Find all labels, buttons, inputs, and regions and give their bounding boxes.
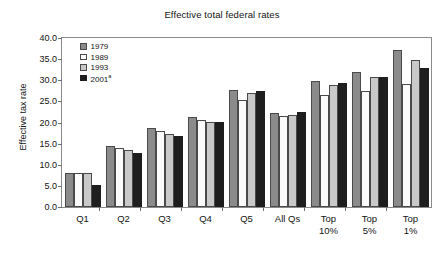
legend-swatch-icon xyxy=(80,43,87,50)
bar-2001-Top-10% xyxy=(338,83,347,207)
y-axis-tick-label: 0.0 xyxy=(21,202,62,212)
x-axis-tick-label: Top 5% xyxy=(362,213,377,236)
bar-1979-Q5 xyxy=(229,90,238,207)
legend-footnote-marker: a xyxy=(108,73,111,79)
bar-1993-Top-1% xyxy=(411,60,420,207)
plot-inner: 40.035.030.025.020.015.010.05.00.0 Q1Q2Q… xyxy=(62,38,431,207)
legend-swatch-icon xyxy=(80,64,87,71)
bar-1993-Top-5% xyxy=(370,77,379,207)
legend-item-1989: 1989 xyxy=(80,53,111,62)
x-axis-tick-mark xyxy=(304,207,305,211)
bar-1979-Q3 xyxy=(147,128,156,207)
y-axis-tick-label: 35.0 xyxy=(21,54,62,64)
bar-group xyxy=(188,38,224,207)
y-axis-tick-label: 15.0 xyxy=(21,139,62,149)
chart-title: Effective total federal rates xyxy=(0,9,444,20)
x-axis-tick-label: Q2 xyxy=(117,213,130,225)
x-axis-tick-label: Q5 xyxy=(240,213,253,225)
x-axis-tick-mark xyxy=(140,207,141,211)
x-axis-tick-mark xyxy=(386,207,387,211)
bar-1989-Q3 xyxy=(156,131,165,207)
bar-1979-Top-1% xyxy=(393,50,402,207)
y-axis-tick-label: 10.0 xyxy=(21,160,62,170)
y-axis-tick-label: 25.0 xyxy=(21,96,62,106)
bar-1993-Q3 xyxy=(165,134,174,208)
chart-legend: 1979198919932001a xyxy=(80,42,111,83)
bar-2001-Q5 xyxy=(256,91,265,207)
bar-group xyxy=(393,38,429,207)
bar-1989-Q2 xyxy=(115,148,124,207)
bar-1979-Q4 xyxy=(188,117,197,207)
chart-figure: Effective total federal rates Effective … xyxy=(0,0,444,254)
bar-1993-Q4 xyxy=(206,122,215,207)
bar-group xyxy=(352,38,388,207)
plot-area: 40.035.030.025.020.015.010.05.00.0 Q1Q2Q… xyxy=(61,37,432,208)
legend-item-1993: 1993 xyxy=(80,63,111,72)
y-axis-tick-label: 5.0 xyxy=(21,181,62,191)
bar-2001-Q3 xyxy=(174,136,183,207)
bar-1979-All-Qs xyxy=(270,113,279,207)
bar-1979-Q1 xyxy=(65,173,74,207)
y-axis-tick-mark xyxy=(58,207,62,208)
legend-label: 1989 xyxy=(91,53,109,62)
bar-1979-Top-10% xyxy=(311,81,320,207)
legend-label: 2001a xyxy=(91,72,112,84)
x-axis-tick-mark xyxy=(181,207,182,211)
legend-label: 1979 xyxy=(91,42,109,51)
y-axis-tick-label: 20.0 xyxy=(21,118,62,128)
x-axis-tick-label: Q1 xyxy=(76,213,89,225)
x-axis-tick-mark xyxy=(345,207,346,211)
bar-2001-Q2 xyxy=(133,153,142,207)
y-axis-tick-label: 40.0 xyxy=(21,33,62,43)
x-axis-tick-label: Q4 xyxy=(199,213,212,225)
bar-1989-Top-1% xyxy=(402,84,411,207)
bar-1993-Q1 xyxy=(83,173,92,207)
bar-2001-Q1 xyxy=(92,185,101,207)
bar-group xyxy=(270,38,306,207)
bar-1989-Top-5% xyxy=(361,91,370,207)
x-axis-tick-label: Q3 xyxy=(158,213,171,225)
bar-1989-Q1 xyxy=(74,173,83,207)
x-axis-tick-label: Top 1% xyxy=(403,213,418,236)
x-axis-tick-label: All Qs xyxy=(275,213,300,225)
x-axis-tick-mark xyxy=(99,207,100,211)
bar-group xyxy=(311,38,347,207)
bar-1979-Q2 xyxy=(106,146,115,207)
legend-label: 1993 xyxy=(91,63,109,72)
legend-item-2001: 2001a xyxy=(80,74,111,83)
bar-2001-Q4 xyxy=(215,122,224,207)
bar-group xyxy=(229,38,265,207)
bar-1993-Top-10% xyxy=(329,85,338,207)
legend-swatch-icon xyxy=(80,54,87,61)
legend-swatch-icon xyxy=(80,75,87,82)
bar-groups xyxy=(62,38,431,207)
x-axis-tick-mark xyxy=(222,207,223,211)
y-axis-tick-label: 30.0 xyxy=(21,75,62,85)
bar-2001-Top-1% xyxy=(420,68,429,207)
bar-1979-Top-5% xyxy=(352,72,361,207)
bar-group xyxy=(147,38,183,207)
bar-1993-All-Qs xyxy=(288,115,297,207)
x-axis-tick-mark xyxy=(263,207,264,211)
x-axis-tick-label: Top 10% xyxy=(319,213,338,236)
bar-1993-Q2 xyxy=(124,150,133,207)
bar-1989-Q4 xyxy=(197,120,206,207)
legend-item-1979: 1979 xyxy=(80,42,111,51)
bar-2001-All-Qs xyxy=(297,112,306,207)
bar-1989-All-Qs xyxy=(279,116,288,207)
bar-1993-Q5 xyxy=(247,93,256,207)
bar-2001-Top-5% xyxy=(379,77,388,207)
bar-1989-Top-10% xyxy=(320,95,329,207)
bar-1989-Q5 xyxy=(238,100,247,207)
